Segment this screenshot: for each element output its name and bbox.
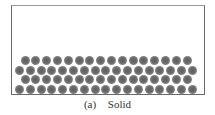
particle xyxy=(161,56,170,65)
particle xyxy=(183,75,192,84)
particle xyxy=(75,56,84,65)
particle xyxy=(177,66,186,75)
particle xyxy=(150,75,159,84)
particle xyxy=(107,75,116,84)
particle xyxy=(188,85,197,94)
particle xyxy=(177,85,186,94)
particle xyxy=(75,75,84,84)
particle xyxy=(91,85,100,94)
particle xyxy=(183,56,192,65)
particle xyxy=(107,56,116,65)
particle xyxy=(85,75,94,84)
particle xyxy=(134,66,143,75)
particle xyxy=(129,75,138,84)
particle xyxy=(15,66,24,75)
particle xyxy=(26,85,35,94)
particle xyxy=(64,75,73,84)
particle xyxy=(37,66,46,75)
container-box xyxy=(11,5,205,95)
particle xyxy=(91,66,100,75)
particle xyxy=(172,75,181,84)
particle xyxy=(21,56,30,65)
particle xyxy=(118,56,127,65)
particle xyxy=(112,66,121,75)
particle xyxy=(101,85,110,94)
particle xyxy=(80,85,89,94)
particle xyxy=(31,56,40,65)
particle xyxy=(139,75,148,84)
figure-caption: (a) Solid xyxy=(0,98,215,110)
particle xyxy=(26,66,35,75)
particle xyxy=(80,66,89,75)
particle xyxy=(47,85,56,94)
caption-text: Solid xyxy=(108,98,131,110)
particle xyxy=(69,85,78,94)
particle xyxy=(161,75,170,84)
particle xyxy=(53,75,62,84)
particle xyxy=(101,66,110,75)
particle xyxy=(155,66,164,75)
particle xyxy=(129,56,138,65)
particle xyxy=(42,56,51,65)
particle xyxy=(166,85,175,94)
particle xyxy=(37,85,46,94)
particle xyxy=(31,75,40,84)
particle xyxy=(145,66,154,75)
particle xyxy=(112,85,121,94)
particle xyxy=(188,66,197,75)
particle xyxy=(150,56,159,65)
particle xyxy=(134,85,143,94)
particle xyxy=(139,56,148,65)
particle xyxy=(155,85,164,94)
particle xyxy=(64,56,73,65)
particle xyxy=(47,66,56,75)
particle xyxy=(145,85,154,94)
particle xyxy=(118,75,127,84)
particle xyxy=(53,56,62,65)
particle xyxy=(21,75,30,84)
particle xyxy=(58,66,67,75)
particle xyxy=(69,66,78,75)
particle xyxy=(166,66,175,75)
particle xyxy=(123,85,132,94)
caption-label: (a) xyxy=(84,98,96,110)
particle xyxy=(172,56,181,65)
particle xyxy=(42,75,51,84)
particle xyxy=(96,56,105,65)
particle xyxy=(123,66,132,75)
particle xyxy=(58,85,67,94)
particle xyxy=(85,56,94,65)
particle xyxy=(96,75,105,84)
particle xyxy=(15,85,24,94)
